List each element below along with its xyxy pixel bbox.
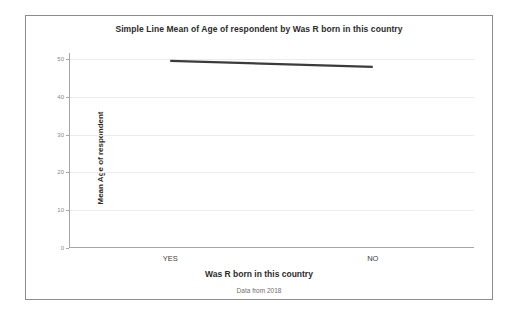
x-tick-label: YES bbox=[163, 254, 178, 263]
y-tick-label: 0 bbox=[61, 245, 64, 251]
series-line-path bbox=[170, 61, 373, 67]
y-tick-label: 30 bbox=[57, 132, 64, 138]
chart-container: Simple Line Mean of Age of respondent by… bbox=[25, 15, 493, 300]
chart-footnote: Data from 2018 bbox=[26, 287, 492, 294]
series-line-chart bbox=[69, 59, 474, 248]
x-axis-title: Was R born in this country bbox=[26, 269, 492, 279]
y-tick-label: 50 bbox=[57, 56, 64, 62]
chart-title: Simple Line Mean of Age of respondent by… bbox=[26, 24, 492, 34]
y-tick-label: 20 bbox=[57, 169, 64, 175]
y-tick-label: 10 bbox=[57, 207, 64, 213]
x-tick-label: NO bbox=[367, 254, 378, 263]
y-tick-label: 40 bbox=[57, 94, 64, 100]
y-tick-mark bbox=[66, 248, 69, 249]
plot-area: 01020304050 YESNO bbox=[69, 59, 474, 248]
